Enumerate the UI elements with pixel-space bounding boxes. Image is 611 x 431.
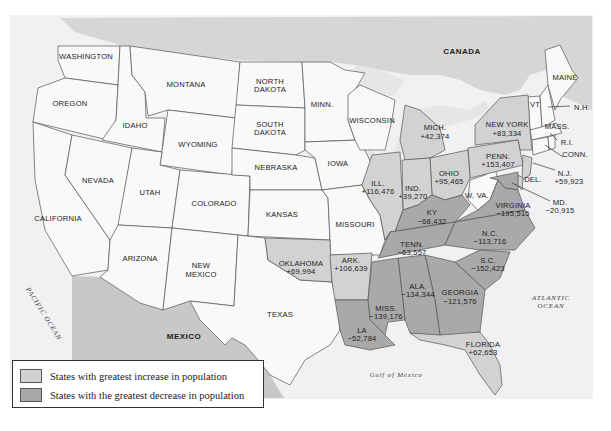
value-oklahoma: +69,994 — [286, 267, 315, 276]
label-georgia: GEORGIA — [442, 288, 480, 297]
value-ohio: +95,465 — [434, 177, 463, 186]
label-wyoming: WYOMING — [178, 140, 217, 149]
value-florida: +62,653 — [468, 348, 497, 357]
value-miss: −139,176 — [369, 312, 402, 321]
label-utah: UTAH — [140, 188, 161, 197]
label-nh: N.H. — [574, 103, 590, 112]
value-new-york: +83,334 — [492, 129, 521, 138]
legend-item-increase: States with greatest increase in populat… — [20, 369, 227, 383]
label-canada: CANADA — [443, 47, 481, 56]
value-md: −20,915 — [545, 206, 574, 215]
value-mich: +42,374 — [420, 132, 449, 141]
label-kansas: KANSAS — [266, 210, 298, 219]
label-california: CALIFORNIA — [34, 214, 82, 223]
value-ky: −68,432 — [417, 217, 446, 226]
label-colorado: COLORADO — [191, 199, 236, 208]
label-oregon: OREGON — [53, 99, 88, 108]
value-nj: +59,923 — [554, 177, 583, 186]
label-ri: R.I. — [561, 138, 574, 147]
label-mich: MICH. — [424, 123, 447, 132]
map-legend: States with greatest increase in populat… — [12, 360, 264, 408]
label-new-york: NEW YORK — [486, 120, 529, 129]
label-mexico: MEXICO — [167, 332, 202, 341]
legend-label-increase: States with greatest increase in populat… — [50, 371, 227, 382]
label-nevada: NEVADA — [82, 176, 115, 185]
value-penn: +153,407 — [481, 160, 514, 169]
value-ind: +39,270 — [398, 192, 427, 201]
label-vt: VT — [530, 100, 540, 109]
label-wisconsin: WISCONSIN — [349, 116, 395, 125]
value-la: −52,784 — [347, 334, 376, 343]
value-georgia: −121,576 — [443, 297, 476, 306]
label-atlantic-1: ATLANTIC — [531, 294, 570, 302]
label-gulf-of-mexico: Gulf of Mexico — [369, 371, 422, 379]
value-ill: +116,476 — [362, 187, 395, 196]
label-idaho: IDAHO — [122, 121, 147, 130]
label-washington: WASHINGTON — [59, 52, 113, 61]
label-nebraska: NEBRASKA — [255, 163, 299, 172]
legend-label-decrease: States with the greatest decrease in pop… — [50, 390, 244, 401]
legend-swatch-increase — [20, 369, 42, 383]
value-ark: +106,639 — [334, 264, 367, 273]
label-new-mexico-2: MEXICO — [185, 270, 216, 279]
value-nc: −113,716 — [474, 237, 507, 246]
value-tenn: −63,557 — [397, 248, 426, 257]
legend-swatch-decrease — [20, 388, 42, 402]
label-montana: MONTANA — [167, 80, 207, 89]
label-maine: MAINE — [552, 73, 577, 82]
legend-item-decrease: States with the greatest decrease in pop… — [20, 388, 244, 402]
label-conn: CONN. — [562, 150, 587, 159]
label-north-dakota-2: DAKOTA — [254, 85, 287, 94]
label-new-mexico-1: NEW — [192, 261, 211, 270]
value-virginia: −195,515 — [496, 209, 529, 218]
label-missouri: MISSOURI — [335, 220, 374, 229]
label-atlantic-2: OCEAN — [538, 302, 565, 310]
label-minn: MINN. — [311, 100, 334, 109]
label-south-dakota-2: DAKOTA — [254, 128, 287, 137]
label-wva: W. VA. — [465, 191, 489, 200]
label-ky: KY — [427, 208, 438, 217]
label-del: DEL. — [524, 175, 542, 184]
value-sc: −152,423 — [471, 264, 504, 273]
value-ala: −134,344 — [401, 290, 434, 299]
label-iowa: IOWA — [328, 159, 350, 168]
label-texas: TEXAS — [267, 310, 293, 319]
label-arizona: ARIZONA — [122, 254, 158, 263]
label-mass: MASS. — [545, 122, 570, 131]
